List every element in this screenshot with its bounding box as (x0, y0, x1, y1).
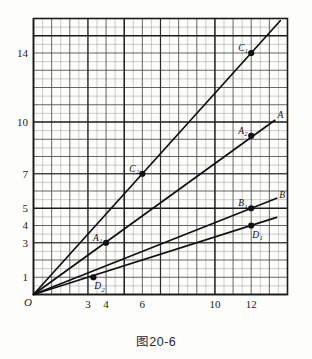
origin-label: O (24, 296, 32, 308)
figure-caption: 图20-6 (0, 331, 312, 350)
svg-text:14: 14 (17, 47, 29, 59)
svg-text:10: 10 (209, 298, 221, 310)
graph-plot: C2C1A1A2B1D2D1 AB 3461012 134571014 O (0, 0, 312, 359)
svg-text:7: 7 (23, 168, 29, 180)
svg-text:3: 3 (23, 237, 29, 249)
svg-text:4: 4 (23, 219, 29, 231)
svg-text:3: 3 (85, 298, 91, 310)
svg-text:6: 6 (140, 298, 146, 310)
figure-background (0, 0, 312, 359)
svg-text:B: B (279, 190, 285, 200)
svg-text:10: 10 (17, 116, 29, 128)
figure-container: C2C1A1A2B1D2D1 AB 3461012 134571014 O 图2… (0, 0, 312, 359)
svg-text:5: 5 (23, 202, 29, 214)
svg-text:4: 4 (103, 298, 109, 310)
svg-text:A: A (277, 110, 284, 120)
svg-text:1: 1 (23, 271, 29, 283)
svg-text:12: 12 (246, 298, 257, 310)
